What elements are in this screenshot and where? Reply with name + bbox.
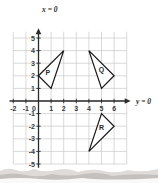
x-tick-label: 2 [62, 105, 66, 112]
y-tick-label: -4 [29, 148, 35, 155]
x-axis-label: y = 0 [135, 97, 151, 106]
coordinate-plot: -2-10123456 54321-1-2-3-4-5 x = 0 y = 0 … [0, 0, 158, 183]
chart-background [0, 0, 158, 183]
x-tick-label: 1 [49, 105, 53, 112]
x-tick-label: -2 [10, 105, 16, 112]
x-axis-tick-labels: -2-10123456 [10, 105, 116, 112]
x-tick-label: 3 [74, 105, 78, 112]
y-tick-label: -1 [29, 110, 35, 117]
x-tick-label: 4 [87, 105, 91, 112]
y-tick-label: 5 [31, 35, 35, 42]
triangle-label-r: R [99, 124, 104, 131]
y-tick-label: 2 [31, 72, 35, 79]
x-tick-label: 6 [112, 105, 116, 112]
y-tick-label: 3 [31, 60, 35, 67]
y-tick-label: 4 [31, 47, 35, 54]
y-axis-label: x = 0 [41, 5, 58, 14]
triangle-label-p: P [46, 69, 51, 76]
coordinate-plane-figure: -2-10123456 54321-1-2-3-4-5 x = 0 y = 0 … [0, 0, 158, 183]
y-tick-label: -3 [29, 135, 35, 142]
y-tick-label: -5 [29, 161, 35, 168]
x-tick-label: 5 [100, 105, 104, 112]
y-tick-label: -2 [29, 123, 35, 130]
triangle-label-q: Q [99, 66, 105, 74]
y-tick-label: 1 [31, 85, 35, 92]
